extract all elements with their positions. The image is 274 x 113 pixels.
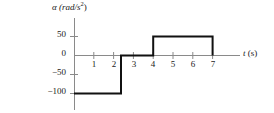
y-tick-label-m50: −50 (30, 68, 66, 77)
x-tick-label-4: 4 (146, 60, 160, 69)
x-tick-label-2: 2 (107, 60, 121, 69)
x-axis-title-unit: (s) (246, 48, 258, 58)
y-axis-title-symbol: α (rad/s (52, 2, 80, 12)
angular-acceleration-chart: α (rad/s2) t (s) 50 0 −50 −100 1 2 3 4 5… (0, 0, 274, 113)
x-tick-label-5: 5 (166, 60, 180, 69)
y-tick-label-0: 0 (36, 49, 66, 58)
x-tick-label-6: 6 (186, 60, 200, 69)
y-tick-label-m100: −100 (26, 87, 66, 96)
x-axis-title: t (s) (243, 49, 257, 58)
x-tick-label-7: 7 (206, 60, 220, 69)
x-tick-label-1: 1 (87, 60, 101, 69)
y-axis-title: α (rad/s2) (52, 3, 87, 12)
y-axis-title-paren: ) (84, 2, 87, 12)
y-tick-label-50: 50 (36, 30, 66, 39)
x-tick-label-3: 3 (127, 60, 141, 69)
